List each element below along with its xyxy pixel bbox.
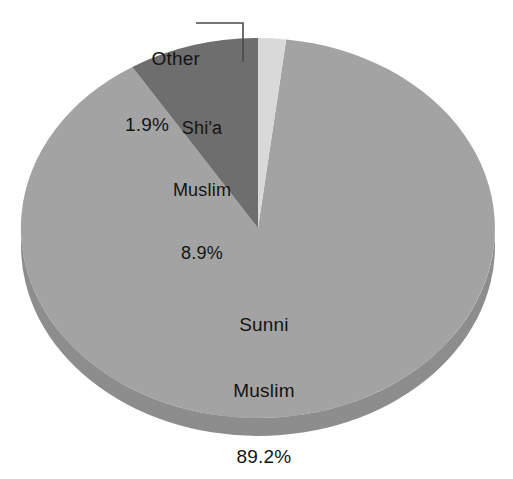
- slice-label-sunni: Sunni Muslim 89.2%: [204, 270, 324, 479]
- slice-label-other-name: Other: [96, 48, 200, 70]
- slice-label-shia-line1: Shi'a: [150, 118, 254, 139]
- slice-label-sunni-line2: Muslim: [204, 380, 324, 402]
- pie-chart: Other 1.9% Shi'a Muslim 8.9% Sunni Musli…: [0, 0, 513, 479]
- slice-label-sunni-line1: Sunni: [204, 314, 324, 336]
- slice-label-sunni-percent: 89.2%: [204, 446, 324, 468]
- slice-label-shia-percent: 8.9%: [150, 243, 254, 264]
- slice-label-shia-line2: Muslim: [150, 180, 254, 201]
